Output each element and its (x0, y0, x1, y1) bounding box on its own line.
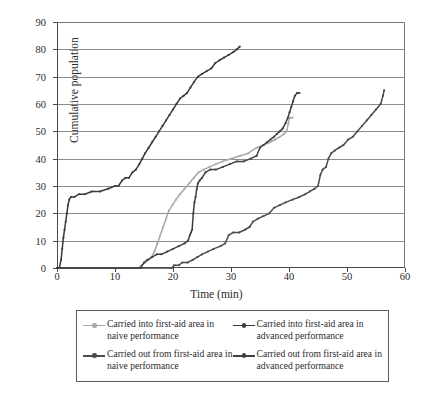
series-marker (178, 245, 180, 247)
series-marker (155, 136, 157, 138)
series-marker (319, 174, 321, 176)
series-marker (215, 169, 217, 171)
legend-item[interactable]: Carried into first-aid area in advanced … (233, 318, 383, 341)
series-marker (190, 232, 192, 234)
series-marker (196, 256, 198, 258)
series-marker (161, 253, 163, 255)
series-marker (125, 177, 127, 179)
series-marker (288, 122, 290, 124)
series-marker (197, 76, 199, 78)
series-marker (286, 130, 288, 132)
series-marker (209, 169, 211, 171)
series-marker (192, 212, 194, 214)
series-marker (176, 103, 178, 105)
series-marker (188, 182, 190, 184)
series-marker (141, 158, 143, 160)
y-axis-tick-label: 70 (36, 71, 47, 82)
legend-item[interactable]: Carried out from first-aid area in advan… (233, 348, 383, 371)
series-marker (207, 251, 209, 253)
series-marker (193, 177, 195, 179)
y-axis-tick-label: 40 (36, 153, 47, 164)
series-marker (289, 111, 291, 113)
series-marker (151, 141, 153, 143)
series-marker (322, 169, 324, 171)
series-marker (198, 171, 200, 173)
series-marker (228, 54, 230, 56)
legend-dot (92, 353, 97, 358)
series-marker (343, 144, 345, 146)
series-marker (256, 155, 258, 157)
series-marker (165, 218, 167, 220)
series-marker (299, 196, 301, 198)
series-marker (219, 59, 221, 61)
legend-dot (242, 323, 247, 328)
series-marker (325, 166, 327, 168)
series-marker (210, 68, 212, 70)
series-marker (248, 152, 250, 154)
series-marker (99, 191, 101, 193)
x-axis-title: Time (min) (0, 288, 433, 300)
series-marker (121, 180, 123, 182)
series-marker (178, 264, 180, 266)
series-marker (244, 229, 246, 231)
series-2 (58, 46, 240, 269)
series-marker (183, 95, 185, 97)
series-marker (144, 152, 146, 154)
series-marker (309, 191, 311, 193)
data-series-group (57, 22, 405, 268)
series-marker (162, 226, 164, 228)
series-marker (375, 109, 377, 111)
y-axis-tick-label: 60 (36, 99, 47, 110)
series-marker (289, 117, 291, 119)
series-marker (238, 232, 240, 234)
series-marker (383, 89, 385, 91)
series-marker (279, 130, 281, 132)
series-marker (292, 199, 294, 201)
series-marker (292, 100, 294, 102)
series-marker (236, 161, 238, 163)
series-marker (357, 130, 359, 132)
series-marker (259, 147, 261, 149)
series-marker (256, 147, 258, 149)
series-marker (169, 114, 171, 116)
series-marker (173, 264, 175, 266)
series-marker (194, 202, 196, 204)
series-marker (156, 253, 158, 255)
series-marker (232, 51, 234, 53)
legend-label: Carried into first-aid area in naive per… (105, 318, 233, 341)
series-marker (201, 177, 203, 179)
series-line (59, 47, 239, 268)
x-axis-tick-label: 10 (110, 271, 121, 282)
series-marker (171, 267, 173, 269)
series-marker (65, 221, 67, 223)
series-marker (257, 218, 259, 220)
series-marker (334, 150, 336, 152)
series-marker (179, 193, 181, 195)
series-marker (296, 92, 298, 94)
series-marker (380, 103, 382, 105)
series-marker (222, 166, 224, 168)
line-dot-marker-light (83, 320, 105, 332)
x-axis-tick-label: 50 (342, 271, 353, 282)
series-marker (172, 248, 174, 250)
x-axis-tick-labels: 0102030405060 (57, 271, 405, 287)
series-marker (128, 177, 130, 179)
series-marker (252, 221, 254, 223)
series-marker (107, 188, 109, 190)
series-marker (168, 210, 170, 212)
legend-item[interactable]: Carried out from first-aid area in naive… (83, 348, 233, 371)
legend-item[interactable]: Carried into first-aid area in naive per… (83, 318, 233, 341)
series-marker (263, 215, 265, 217)
y-axis-tick-label: 80 (36, 44, 47, 55)
series-marker (135, 169, 137, 171)
series-marker (294, 95, 296, 97)
series-marker (138, 163, 140, 165)
series-marker (205, 171, 207, 173)
series-marker (67, 204, 69, 206)
legend-dot (242, 353, 247, 358)
series-marker (382, 95, 384, 97)
series-marker (214, 62, 216, 64)
series-marker (156, 243, 158, 245)
series-marker (159, 234, 161, 236)
series-marker (239, 155, 241, 157)
